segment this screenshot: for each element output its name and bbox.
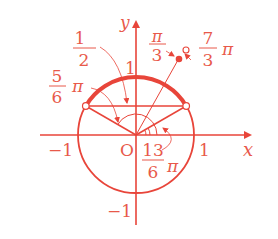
svg-text:1: 1 [75,28,86,48]
y-axis-label: y [119,12,130,32]
label-thirteen-sixths-pi: 13 6 π [142,140,179,182]
origin-label: O [120,140,134,160]
svg-text:6: 6 [148,162,159,182]
unit-circle-diagram: x y O 1 −1 1 −1 1 2 5 6 π π 3 7 3 π 13 6… [0,0,278,239]
svg-text:3: 3 [152,45,163,65]
svg-text:6: 6 [52,87,63,107]
ray-pi-3 [136,60,178,135]
filled-point-pi-3 [176,56,183,63]
leader-pi-3 [166,51,174,56]
svg-text:π: π [151,27,163,46]
leader-seven-thirds [185,54,191,60]
svg-text:2: 2 [79,50,90,70]
y-neg-tick-label: −1 [107,201,132,221]
svg-text:3: 3 [203,50,214,70]
svg-text:π: π [166,156,179,176]
svg-text:7: 7 [203,28,214,48]
label-pi-over-3: π 3 [149,27,166,65]
x-pos-tick-label: 1 [199,140,210,160]
open-point-7pi-3 [183,47,189,53]
y-pos-tick-label: 1 [125,58,136,78]
x-axis-label: x [243,139,253,160]
label-half: 1 2 [73,28,96,70]
angle-arc-13pi-6 [148,128,150,135]
svg-text:13: 13 [142,140,164,160]
svg-text:π: π [221,39,234,59]
label-seven-thirds-pi: 7 3 π [199,28,234,70]
open-point-5pi-6 [83,103,90,110]
label-five-sixths-pi: 5 6 π [49,66,84,107]
open-point-pi-6 [183,103,190,110]
svg-text:5: 5 [52,66,63,86]
radius-5pi-6 [86,106,136,135]
x-neg-tick-label: −1 [48,140,73,160]
svg-text:π: π [71,76,84,96]
radius-pi-6 [136,106,186,135]
